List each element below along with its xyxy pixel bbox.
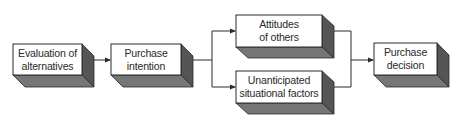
node-purchase-decision: Purchase decision [374,43,450,88]
node-label-line: Unanticipated [248,74,310,87]
node-label-line: Purchase [384,46,427,59]
node-label-line: Purchase [124,47,167,60]
node-label-line: Evaluation of [18,47,77,60]
node-attitudes-of-others: Attitudes of others [236,15,335,59]
node-label-line: Attitudes [259,18,299,31]
node-label-line: intention [127,60,165,73]
node-purchase-intention: Purchase intention [111,44,194,88]
purchase-decision-flow-diagram: Evaluation of alternatives Purchase inte… [0,0,461,125]
node-label-line: of others [259,31,299,44]
node-label-line: alternatives [22,60,74,73]
node-unanticipated-situational-factors: Unanticipated situational factors [236,71,335,115]
node-label-line: situational factors [240,87,319,100]
node-label-line: decision [387,59,424,72]
node-evaluation-of-alternatives: Evaluation of alternatives [13,44,95,88]
